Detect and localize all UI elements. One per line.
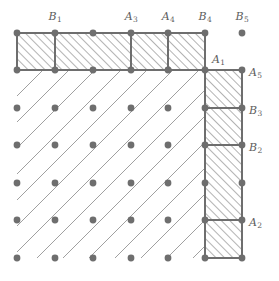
lattice-dot [90,217,97,224]
label-base: A [249,216,257,229]
lattice-dot [202,30,209,37]
lattice-dot [90,105,97,112]
point-label-a4: A4 [162,11,175,22]
lattice-dot [202,217,209,224]
label-base: B [236,10,244,23]
label-subscript: 1 [220,58,225,67]
lattice-dot [239,142,246,149]
label-subscript: 5 [244,15,249,24]
label-base: A [212,53,220,66]
right-hatched-strip [205,70,242,258]
top-hatched-strip [17,33,205,70]
lattice-dot [165,67,172,74]
lattice-dot [202,255,209,262]
lattice-dot [14,180,21,187]
lattice-dot [14,217,21,224]
lattice-dot [239,67,246,74]
lattice-dot [165,180,172,187]
lattice-dot [165,217,172,224]
lattice-dot [128,255,135,262]
lattice-dot [14,105,21,112]
label-subscript: 2 [257,146,262,155]
point-label-a3: A3 [125,11,138,22]
lattice-dot [128,142,135,149]
lattice-dot [14,142,21,149]
lattice-dot [128,180,135,187]
lattice-dot [128,30,135,37]
label-base: B [249,104,257,117]
point-label-b2: B2 [249,142,262,153]
point-label-a5: A5 [249,67,262,78]
lattice-dot [52,30,59,37]
lattice-dot [128,67,135,74]
lattice-dot [14,255,21,262]
label-subscript: 2 [257,221,262,230]
label-subscript: 1 [57,15,62,24]
label-base: B [249,141,257,154]
point-label-b5: B5 [236,11,249,22]
lattice-dot [52,180,59,187]
lattice-dot [165,142,172,149]
hook-diagram-figure: B1A3A4B4B5A1A5B3B2A2 [0,0,279,281]
lattice-dot [52,142,59,149]
lattice-dot [202,180,209,187]
diagram-canvas [0,0,279,281]
label-base: B [199,10,207,23]
label-base: A [249,66,257,79]
lattice-dot [239,30,246,37]
lattice-dot [165,255,172,262]
lattice-dot [128,217,135,224]
lattice-dot [165,105,172,112]
lattice-dot [90,180,97,187]
label-subscript: 3 [133,15,138,24]
label-subscript: 3 [257,109,262,118]
point-label-b3: B3 [249,105,262,116]
lattice-dot [128,105,135,112]
lattice-dot [52,105,59,112]
label-subscript: 5 [257,71,262,80]
lattice-dot [239,217,246,224]
label-subscript: 4 [207,15,212,24]
point-label-a1: A1 [212,54,225,65]
lattice-dot [239,180,246,187]
point-label-a2: A2 [249,217,262,228]
point-label-b4: B4 [199,11,212,22]
lattice-dot [52,67,59,74]
lattice-dot [52,255,59,262]
lattice-dot [202,67,209,74]
label-base: A [125,10,133,23]
label-base: A [162,10,170,23]
lattice-dot [14,67,21,74]
lattice-dot [90,255,97,262]
lattice-dot [239,105,246,112]
lattice-dot [90,67,97,74]
lattice-dot [202,105,209,112]
lattice-dot [239,255,246,262]
lattice-dot [90,142,97,149]
top-strip-hatch-fill [17,33,205,70]
right-strip-hatch-fill [205,70,242,258]
label-base: B [49,10,57,23]
lattice-dot [90,30,97,37]
lattice-dot [52,217,59,224]
lattice-dot [202,142,209,149]
lattice-dot [14,30,21,37]
lattice-dot [165,30,172,37]
point-label-b1: B1 [49,11,62,22]
label-subscript: 4 [170,15,175,24]
